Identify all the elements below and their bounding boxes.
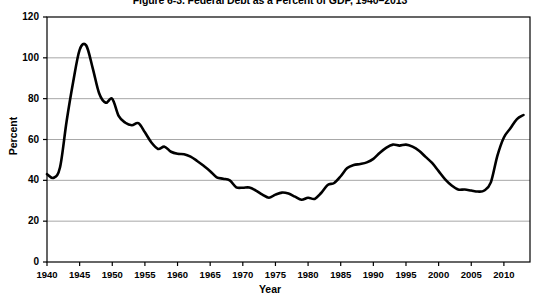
y-tick-label: 0 [5,257,39,267]
plot-area [0,0,540,302]
x-tick-label: 2010 [484,270,524,280]
data-series-line [47,44,523,200]
y-tick-label: 80 [5,94,39,104]
y-axis-title: Percent [7,106,19,166]
y-tick-label: 40 [5,175,39,185]
gridlines [47,58,530,221]
axis-ticks [43,17,504,266]
y-tick-label: 120 [5,12,39,22]
figure-container: Figure 6-3. Federal Debt as a Percent of… [0,0,540,302]
y-tick-label: 20 [5,216,39,226]
y-tick-label: 100 [5,53,39,63]
x-axis-title: Year [0,283,540,295]
